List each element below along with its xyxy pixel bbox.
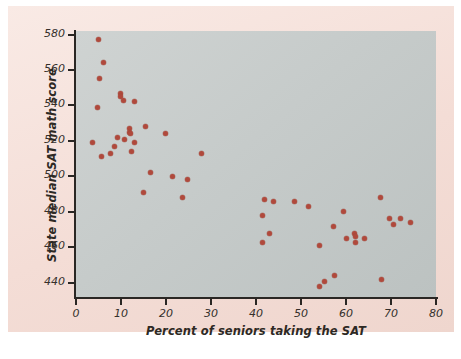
y-axis-line bbox=[74, 30, 76, 299]
data-point bbox=[122, 137, 127, 142]
data-point bbox=[260, 240, 265, 245]
x-tick-label: 60 bbox=[331, 307, 361, 320]
plot-area bbox=[76, 31, 436, 297]
y-tick-mark bbox=[68, 282, 74, 284]
data-point bbox=[353, 234, 358, 239]
x-tick-mark bbox=[300, 299, 302, 305]
data-point bbox=[260, 213, 265, 218]
y-tick-mark bbox=[68, 246, 74, 248]
data-point bbox=[101, 60, 106, 65]
data-point bbox=[170, 174, 175, 179]
data-point bbox=[132, 99, 137, 104]
data-point bbox=[362, 236, 367, 241]
data-point bbox=[408, 220, 413, 225]
y-tick-mark bbox=[68, 175, 74, 177]
y-tick-mark bbox=[68, 69, 74, 71]
x-tick-mark bbox=[165, 299, 167, 305]
data-point bbox=[115, 135, 120, 140]
x-tick-mark bbox=[390, 299, 392, 305]
x-tick-mark bbox=[255, 299, 257, 305]
data-point bbox=[96, 37, 101, 42]
scatter-plot-figure: 440460480500520540560580 010203040506070… bbox=[0, 0, 461, 359]
y-tick-mark bbox=[68, 211, 74, 213]
x-tick-label: 80 bbox=[421, 307, 451, 320]
x-tick-label: 50 bbox=[286, 307, 316, 320]
data-point bbox=[292, 199, 297, 204]
data-point bbox=[180, 195, 185, 200]
x-tick-mark bbox=[120, 299, 122, 305]
y-tick-mark bbox=[68, 140, 74, 142]
x-tick-label: 70 bbox=[376, 307, 406, 320]
data-point bbox=[128, 131, 133, 136]
x-tick-label: 20 bbox=[151, 307, 181, 320]
data-point bbox=[108, 151, 113, 156]
data-point bbox=[185, 177, 190, 182]
data-point bbox=[306, 204, 311, 209]
x-tick-label: 40 bbox=[241, 307, 271, 320]
x-tick-mark bbox=[75, 299, 77, 305]
data-point bbox=[267, 231, 272, 236]
data-point bbox=[121, 98, 126, 103]
x-tick-label: 30 bbox=[196, 307, 226, 320]
data-point bbox=[132, 140, 137, 145]
x-tick-mark bbox=[210, 299, 212, 305]
data-point bbox=[341, 209, 346, 214]
data-point bbox=[95, 105, 100, 110]
data-point bbox=[271, 199, 276, 204]
data-point bbox=[378, 195, 383, 200]
data-point bbox=[332, 273, 337, 278]
data-point bbox=[317, 243, 322, 248]
data-point bbox=[143, 124, 148, 129]
data-point bbox=[387, 216, 392, 221]
data-point bbox=[148, 170, 153, 175]
data-point bbox=[353, 240, 358, 245]
data-point bbox=[398, 216, 403, 221]
data-point bbox=[391, 222, 396, 227]
x-tick-mark bbox=[435, 299, 437, 305]
data-point bbox=[344, 236, 349, 241]
data-point bbox=[141, 190, 146, 195]
data-point bbox=[112, 144, 117, 149]
data-point bbox=[99, 154, 104, 159]
x-tick-label: 10 bbox=[106, 307, 136, 320]
data-point bbox=[379, 277, 384, 282]
data-point bbox=[317, 284, 322, 289]
y-axis-title: State median SAT math score bbox=[45, 32, 59, 298]
data-point bbox=[331, 224, 336, 229]
data-point bbox=[97, 76, 102, 81]
x-tick-mark bbox=[345, 299, 347, 305]
data-point bbox=[90, 140, 95, 145]
x-tick-label: 0 bbox=[61, 307, 91, 320]
y-tick-mark bbox=[68, 104, 74, 106]
data-point bbox=[163, 131, 168, 136]
data-point bbox=[262, 197, 267, 202]
y-tick-mark bbox=[68, 34, 74, 36]
data-point bbox=[129, 149, 134, 154]
data-point bbox=[322, 279, 327, 284]
x-axis-title: Percent of seniors taking the SAT bbox=[76, 324, 436, 338]
data-point bbox=[199, 151, 204, 156]
